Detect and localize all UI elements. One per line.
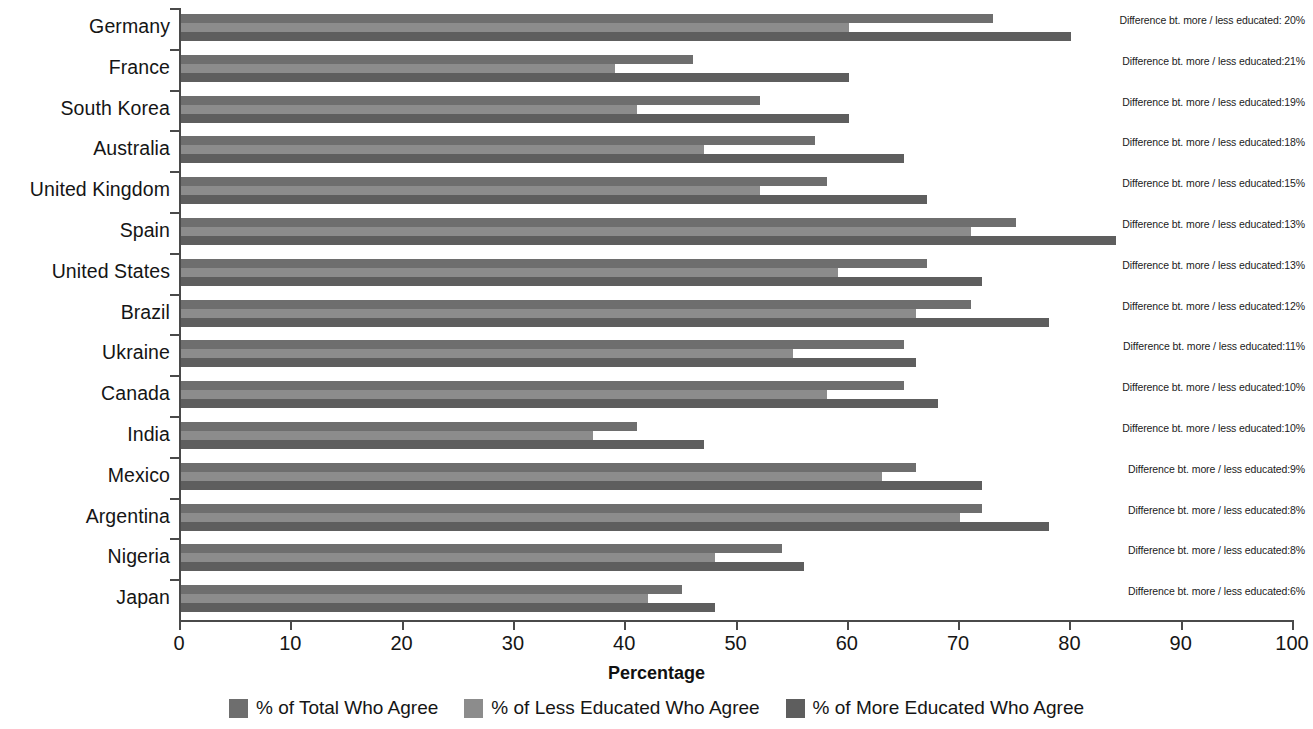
bar-total-who-agree	[181, 218, 1016, 227]
category-label: India	[127, 423, 170, 446]
x-axis-tick	[179, 620, 181, 630]
bar-less-educated-who-agree	[181, 513, 960, 522]
bar-less-educated-who-agree	[181, 64, 615, 73]
bar-total-who-agree	[181, 259, 927, 268]
chart-row: GermanyDifference bt. more / less educat…	[0, 8, 1313, 49]
difference-annotation: Difference bt. more / less educated:8%	[1128, 544, 1305, 556]
legend-item: % of Less Educated Who Agree	[464, 697, 759, 719]
bar-more-educated-who-agree	[181, 114, 849, 123]
category-label: France	[109, 56, 170, 79]
bar-chart: GermanyDifference bt. more / less educat…	[0, 0, 1313, 729]
difference-annotation: Difference bt. more / less educated:19%	[1122, 96, 1305, 108]
y-axis-tick	[170, 579, 180, 581]
y-axis-tick	[170, 457, 180, 459]
bar-more-educated-who-agree	[181, 73, 849, 82]
x-axis-tick	[847, 620, 849, 630]
x-axis-tick-label: 50	[724, 632, 746, 655]
difference-annotation: Difference bt. more / less educated:11%	[1123, 340, 1305, 352]
bar-more-educated-who-agree	[181, 277, 982, 286]
x-axis-tick	[290, 620, 292, 630]
chart-row: JapanDifference bt. more / less educated…	[0, 579, 1313, 620]
category-label: South Korea	[60, 97, 170, 120]
category-label: Ukraine	[102, 341, 170, 364]
x-axis-tick	[1069, 620, 1071, 630]
bar-more-educated-who-agree	[181, 195, 927, 204]
chart-row: MexicoDifference bt. more / less educate…	[0, 457, 1313, 498]
bar-less-educated-who-agree	[181, 472, 882, 481]
legend-item: % of Total Who Agree	[229, 697, 438, 719]
bar-more-educated-who-agree	[181, 440, 704, 449]
y-axis-tick	[170, 498, 180, 500]
chart-row: United KingdomDifference bt. more / less…	[0, 171, 1313, 212]
bar-less-educated-who-agree	[181, 145, 704, 154]
difference-annotation: Difference bt. more / less educated:13%	[1122, 218, 1305, 230]
legend-label: % of Less Educated Who Agree	[491, 697, 759, 719]
difference-annotation: Difference bt. more / less educated:9%	[1128, 463, 1305, 475]
bar-total-who-agree	[181, 544, 782, 553]
bar-less-educated-who-agree	[181, 23, 849, 32]
legend-label: % of More Educated Who Agree	[813, 697, 1084, 719]
bar-less-educated-who-agree	[181, 553, 715, 562]
difference-annotation: Difference bt. more / less educated:10%	[1122, 381, 1305, 393]
x-axis-tick	[958, 620, 960, 630]
bar-more-educated-who-agree	[181, 318, 1049, 327]
bar-less-educated-who-agree	[181, 186, 760, 195]
x-axis-tick-label: 30	[502, 632, 524, 655]
difference-annotation: Difference bt. more / less educated:8%	[1128, 504, 1305, 516]
bar-more-educated-who-agree	[181, 399, 938, 408]
bar-more-educated-who-agree	[181, 358, 916, 367]
y-axis-tick	[170, 171, 180, 173]
bar-more-educated-who-agree	[181, 154, 904, 163]
bar-total-who-agree	[181, 300, 971, 309]
chart-row: BrazilDifference bt. more / less educate…	[0, 294, 1313, 335]
category-label: United Kingdom	[30, 178, 170, 201]
legend-swatch-icon	[464, 699, 483, 718]
y-axis-tick	[170, 49, 180, 51]
category-label: Australia	[93, 137, 170, 160]
y-axis-tick	[170, 8, 180, 10]
legend-label: % of Total Who Agree	[256, 697, 438, 719]
x-axis-tick-label: 10	[279, 632, 301, 655]
legend-swatch-icon	[786, 699, 805, 718]
bar-more-educated-who-agree	[181, 603, 715, 612]
y-axis-tick	[170, 253, 180, 255]
difference-annotation: Difference bt. more / less educated:13%	[1122, 259, 1305, 271]
bar-total-who-agree	[181, 504, 982, 513]
y-axis-tick	[170, 538, 180, 540]
bar-total-who-agree	[181, 463, 916, 472]
bar-less-educated-who-agree	[181, 431, 593, 440]
chart-row: NigeriaDifference bt. more / less educat…	[0, 538, 1313, 579]
difference-annotation: Difference bt. more / less educated:18%	[1122, 136, 1305, 148]
chart-row: FranceDifference bt. more / less educate…	[0, 49, 1313, 90]
bar-less-educated-who-agree	[181, 268, 838, 277]
category-label: United States	[52, 260, 170, 283]
bar-total-who-agree	[181, 422, 637, 431]
bar-less-educated-who-agree	[181, 594, 648, 603]
category-label: Canada	[101, 382, 170, 405]
bar-more-educated-who-agree	[181, 562, 804, 571]
bar-total-who-agree	[181, 55, 693, 64]
chart-row: United StatesDifference bt. more / less …	[0, 253, 1313, 294]
difference-annotation: Difference bt. more / less educated:15%	[1122, 177, 1305, 189]
difference-annotation: Difference bt. more / less educated:21%	[1122, 55, 1305, 67]
bar-more-educated-who-agree	[181, 481, 982, 490]
chart-row: AustraliaDifference bt. more / less educ…	[0, 130, 1313, 171]
category-label: Argentina	[86, 505, 170, 528]
difference-annotation: Difference bt. more / less educated:6%	[1128, 585, 1305, 597]
chart-row: SpainDifference bt. more / less educated…	[0, 212, 1313, 253]
chart-legend: % of Total Who Agree% of Less Educated W…	[0, 697, 1313, 719]
category-label: Mexico	[108, 464, 170, 487]
y-axis-tick	[170, 294, 180, 296]
bar-total-who-agree	[181, 381, 904, 390]
x-axis-tick	[1292, 620, 1294, 630]
y-axis-tick	[170, 130, 180, 132]
category-label: Japan	[116, 586, 170, 609]
bar-total-who-agree	[181, 136, 815, 145]
bar-less-educated-who-agree	[181, 390, 827, 399]
x-axis-tick	[624, 620, 626, 630]
bar-less-educated-who-agree	[181, 309, 916, 318]
category-label: Spain	[120, 219, 170, 242]
legend-item: % of More Educated Who Agree	[786, 697, 1084, 719]
bar-total-who-agree	[181, 340, 904, 349]
x-axis-tick	[1181, 620, 1183, 630]
